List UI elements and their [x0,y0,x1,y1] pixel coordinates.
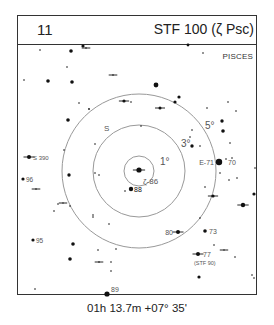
star [88,108,90,110]
star-label-73: 73 [209,228,217,235]
star [236,177,238,179]
star-dot [66,66,68,68]
star-dot [154,83,159,88]
star [53,210,55,212]
star-dot [67,173,70,176]
star-dot [104,291,109,296]
star [63,149,65,151]
star-label-e71: E-71 [199,159,214,166]
star [216,159,222,165]
star-dot [229,142,231,144]
star-dot [71,242,75,246]
star-dot [110,270,112,272]
star-dot [252,192,255,195]
star-label-stf90: (STF 90) [194,260,216,266]
star [173,100,176,103]
star-dot [68,257,72,261]
star-dot [124,190,126,192]
star-dot [129,187,133,191]
star-label-88: 88 [134,186,142,193]
star-dot [187,44,190,47]
star-dot [21,177,24,180]
star [23,79,25,81]
star-dot [236,177,238,179]
star [68,257,72,261]
star-dot [221,129,225,133]
star [108,223,110,225]
star-dot [57,203,59,205]
star [97,249,99,251]
star-dot [92,214,94,216]
star [98,174,100,176]
star-dot [115,248,117,250]
star [229,142,231,144]
star-dot [177,95,180,98]
star-dot [227,101,229,103]
star [187,44,190,47]
star [94,172,96,174]
star-dot [235,110,237,112]
star [124,190,126,192]
star-dot [140,125,142,127]
star-dot [213,244,215,246]
star-dot [173,100,176,103]
star [220,249,228,250]
star-field: 1°3°5°Sζ-8688E-7170S 3909695807377(STF 9… [0,0,274,325]
star [119,99,129,102]
star [251,274,253,276]
star-label-80: 80 [165,229,173,236]
star [199,145,201,147]
star [110,270,112,272]
star [57,203,59,205]
star-dot [110,261,112,263]
star-dot [66,118,70,122]
star-dot [92,216,94,218]
star [110,261,112,263]
star [227,101,229,103]
star-dot [225,158,227,160]
star-dot [108,223,110,225]
star-dot [191,129,193,131]
star-label-77: 77 [203,251,211,258]
star [235,110,237,112]
star-dot [206,107,208,109]
star [206,107,208,109]
star [225,158,227,160]
star [190,144,193,147]
star-dot [81,44,84,47]
star-dot [253,277,255,279]
star-label-89: 89 [111,286,119,293]
star [34,288,36,290]
star [133,167,145,172]
star-dot [46,79,50,83]
star [94,143,96,145]
star-dot [228,179,230,181]
star [234,256,236,258]
star-dot [219,172,221,174]
star [213,244,215,246]
star-dot [98,174,100,176]
star [67,173,70,176]
star-label-95: 95 [36,237,44,244]
star [66,66,68,68]
star-dot [251,274,253,276]
star [202,52,204,54]
star [69,49,73,53]
star [115,248,117,250]
star-label-s390: S 390 [33,155,49,161]
star-dot [130,101,132,103]
star [78,102,80,104]
star-dot [69,205,71,207]
star [92,214,94,216]
star-dot [254,167,256,169]
star-dot [220,119,223,122]
star-dot [31,238,34,241]
star [193,252,204,256]
star [220,119,223,122]
star-dot [70,80,74,84]
circle-label-3deg: 3° [181,138,191,149]
star [69,205,71,207]
star [219,172,221,174]
star [173,230,184,234]
star [140,125,142,127]
